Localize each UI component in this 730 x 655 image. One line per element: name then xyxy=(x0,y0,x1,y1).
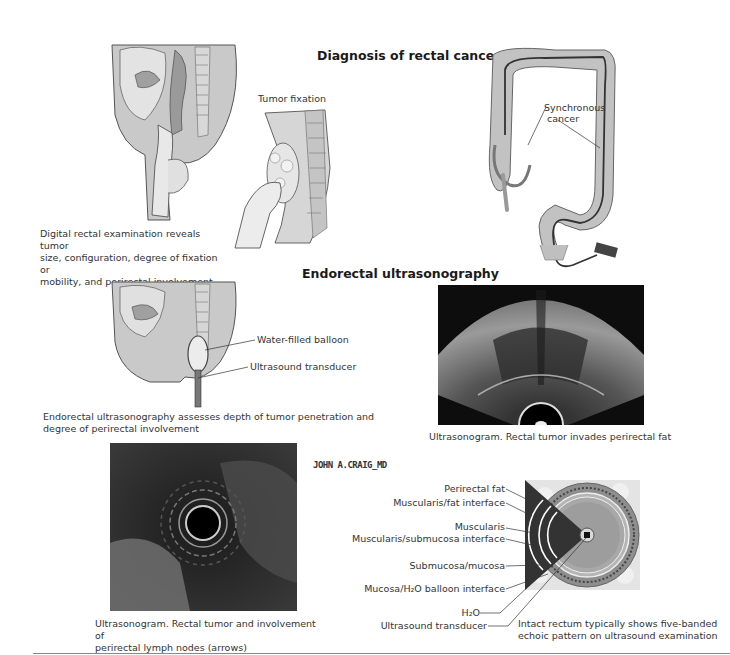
caption-line: echoic pattern on ultrasound examination xyxy=(518,630,730,642)
muscularis-submucosa-interface-label: Muscularis/submucosa interface xyxy=(300,533,505,544)
five-band-leader-lines xyxy=(0,0,730,655)
perirectal-fat-label: Perirectal fat xyxy=(330,483,505,494)
mucosa-balloon-interface-label: Mucosa/H₂O balloon interface xyxy=(300,583,505,594)
five-band-ultrasound-transducer-label: Ultrasound transducer xyxy=(350,620,487,631)
caption-line: Intact rectum typically shows five-bande… xyxy=(518,618,730,630)
five-band-caption: Intact rectum typically shows five-bande… xyxy=(518,618,730,642)
bottom-divider xyxy=(33,653,730,654)
h2o-label: H₂O xyxy=(400,607,480,618)
muscularis-label: Muscularis xyxy=(330,521,505,532)
submucosa-mucosa-label: Submucosa/mucosa xyxy=(330,560,505,571)
muscularis-fat-interface-label: Muscularis/fat interface xyxy=(330,497,505,508)
